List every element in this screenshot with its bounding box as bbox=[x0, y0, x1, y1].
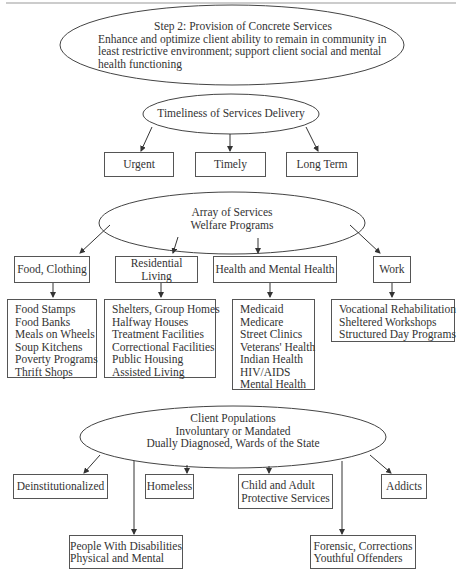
list-item: Medicaid bbox=[240, 303, 314, 316]
client-label: Forensic, Corrections bbox=[313, 540, 412, 553]
client-label: Physical and Mental bbox=[70, 552, 182, 565]
client-addicts: Addicts bbox=[381, 474, 427, 499]
list-item: Soup Kitchens bbox=[15, 341, 96, 354]
step-line-3: health functioning bbox=[98, 58, 388, 71]
client-disabilities: People With Disabilities Physical and Me… bbox=[69, 535, 183, 569]
list-item: Assisted Living bbox=[112, 366, 215, 379]
list-item: Veterans' Health bbox=[240, 341, 314, 354]
clients-title-line-1: Client Populations bbox=[130, 412, 336, 425]
list-item: Street Clinics bbox=[240, 328, 314, 341]
array-title-line-1: Array of Services bbox=[160, 206, 304, 219]
list-item: Structured Day Programs bbox=[339, 328, 454, 341]
list-item: Indian Health bbox=[240, 353, 314, 366]
category-residential-living: Residential Living bbox=[115, 256, 198, 283]
list-item: HIV/AIDS bbox=[240, 366, 314, 379]
client-label: People With Disabilities bbox=[70, 540, 182, 553]
client-label: Homeless bbox=[147, 480, 192, 493]
category-food-clothing: Food, Clothing bbox=[14, 256, 90, 283]
list-item: Treatment Facilities bbox=[112, 328, 215, 341]
array-title-line-2: Welfare Programs bbox=[160, 219, 304, 232]
list-item: Public Housing bbox=[112, 353, 215, 366]
work-list: Vocational Rehabilitation Sheltered Work… bbox=[331, 299, 455, 342]
client-homeless: Homeless bbox=[145, 474, 194, 499]
step-title: Step 2: Provision of Concrete Services bbox=[98, 20, 388, 33]
list-item: Mental Health bbox=[240, 378, 314, 391]
client-label: Youthful Offenders bbox=[313, 552, 412, 565]
client-label: Deinstitutionalized bbox=[17, 480, 105, 493]
timeliness-title: Timeliness of Services Delivery bbox=[143, 107, 319, 120]
clients-title: Client Populations Involuntary or Mandat… bbox=[130, 412, 336, 450]
timeliness-long-term: Long Term bbox=[286, 152, 358, 177]
list-item: Meals on Wheels bbox=[15, 328, 96, 341]
category-work: Work bbox=[373, 256, 411, 283]
list-item: Correctional Facilities bbox=[112, 341, 215, 354]
food-clothing-list: Food Stamps Food Banks Meals on Wheels S… bbox=[7, 299, 97, 378]
step-ellipse-text: Step 2: Provision of Concrete Services E… bbox=[98, 20, 388, 70]
list-item: Thrift Shops bbox=[15, 366, 96, 379]
client-deinstitutionalized: Deinstitutionalized bbox=[13, 474, 108, 499]
client-label: Child and Adult bbox=[241, 479, 329, 492]
client-protective-services: Child and Adult Protective Services bbox=[238, 474, 333, 509]
client-label: Addicts bbox=[386, 480, 422, 493]
client-forensic: Forensic, Corrections Youthful Offenders bbox=[310, 535, 416, 569]
clients-title-line-2: Involuntary or Mandated bbox=[130, 425, 336, 438]
health-list: Medicaid Medicare Street Clinics Veteran… bbox=[232, 299, 315, 390]
list-item: Food Stamps bbox=[15, 303, 96, 316]
client-label: Protective Services bbox=[241, 492, 329, 505]
list-item: Halfway Houses bbox=[112, 316, 215, 329]
clients-title-line-3: Dually Diagnosed, Wards of the State bbox=[130, 437, 336, 450]
step-line-1: Enhance and optimize client ability to r… bbox=[98, 33, 388, 46]
category-health: Health and Mental Health bbox=[213, 256, 337, 283]
timeliness-urgent: Urgent bbox=[104, 152, 174, 177]
list-item: Poverty Programs bbox=[15, 353, 96, 366]
array-title: Array of Services Welfare Programs bbox=[160, 206, 304, 231]
list-item: Sheltered Workshops bbox=[339, 316, 454, 329]
list-item: Vocational Rehabilitation bbox=[339, 303, 454, 316]
list-item: Medicare bbox=[240, 316, 314, 329]
list-item: Shelters, Group Homes bbox=[112, 303, 215, 316]
list-item: Food Banks bbox=[15, 316, 96, 329]
step-line-2: least restrictive environment; support c… bbox=[98, 45, 388, 58]
timeliness-timely: Timely bbox=[195, 152, 266, 177]
residential-living-list: Shelters, Group Homes Halfway Houses Tre… bbox=[104, 299, 216, 378]
